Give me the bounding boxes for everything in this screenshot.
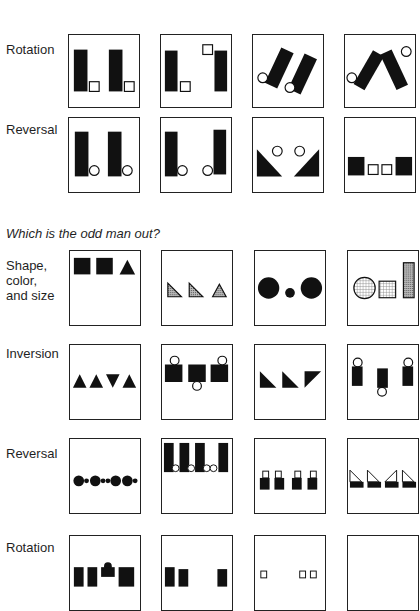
- figure-reversal2-4: [348, 439, 418, 513]
- figure-rotation2-4: [348, 536, 418, 610]
- panel-reversal-2: [160, 117, 232, 193]
- figure-reversal-2: [161, 118, 231, 192]
- question-heading: Which is the odd man out?: [6, 226, 160, 241]
- row-label-reversal: Reversal: [6, 122, 57, 137]
- panel-reversal2-3: [254, 438, 326, 514]
- panel-shape-4: [347, 250, 419, 326]
- figure-rotation-4: [345, 35, 415, 107]
- figure-shape-2: [162, 251, 232, 325]
- panel-rotation-1: [68, 34, 140, 108]
- panel-reversal-3: [252, 117, 324, 193]
- row-label-rotation-2: Rotation: [6, 540, 54, 555]
- panel-shape-2: [161, 250, 233, 326]
- figure-reversal-4: [345, 118, 415, 192]
- panel-reversal2-1: [69, 438, 141, 514]
- panel-reversal2-2: [161, 438, 233, 514]
- panel-reversal-1: [68, 117, 140, 193]
- panel-rotation-3: [252, 34, 324, 108]
- row-label-rotation: Rotation: [6, 42, 54, 57]
- panel-rotation-2: [160, 34, 232, 108]
- panel-rotation2-4: [347, 535, 419, 611]
- figure-reversal2-1: [70, 439, 140, 513]
- panel-reversal2-4: [347, 438, 419, 514]
- panel-reversal-4: [344, 117, 416, 193]
- figure-inversion-3: [255, 345, 325, 419]
- panel-shape-3: [254, 250, 326, 326]
- figure-rotation-3: [253, 35, 323, 107]
- panel-rotation-4: [344, 34, 416, 108]
- figure-shape-1: [70, 251, 140, 325]
- figure-shape-4: [348, 251, 418, 325]
- row-label-shape-color-size: Shape, color, and size: [6, 258, 54, 303]
- figure-rotation2-2: [162, 536, 232, 610]
- panel-inversion-2: [161, 344, 233, 420]
- figure-rotation-2: [161, 35, 231, 107]
- figure-inversion-1: [70, 345, 140, 419]
- panel-rotation2-3: [254, 535, 326, 611]
- figure-reversal-1: [69, 118, 139, 192]
- figure-reversal2-3: [255, 439, 325, 513]
- figure-reversal-3: [253, 118, 323, 192]
- panel-inversion-3: [254, 344, 326, 420]
- figure-rotation2-3: [255, 536, 325, 610]
- figure-rotation2-1: [70, 536, 140, 610]
- figure-rotation-1: [69, 35, 139, 107]
- panel-shape-1: [69, 250, 141, 326]
- figure-inversion-2: [162, 345, 232, 419]
- panel-inversion-4: [347, 344, 419, 420]
- panel-rotation2-2: [161, 535, 233, 611]
- panel-inversion-1: [69, 344, 141, 420]
- figure-inversion-4: [348, 345, 418, 419]
- figure-reversal2-2: [162, 439, 232, 513]
- figure-shape-3: [255, 251, 325, 325]
- panel-rotation2-1: [69, 535, 141, 611]
- row-label-reversal-2: Reversal: [6, 446, 57, 461]
- row-label-inversion: Inversion: [6, 346, 59, 361]
